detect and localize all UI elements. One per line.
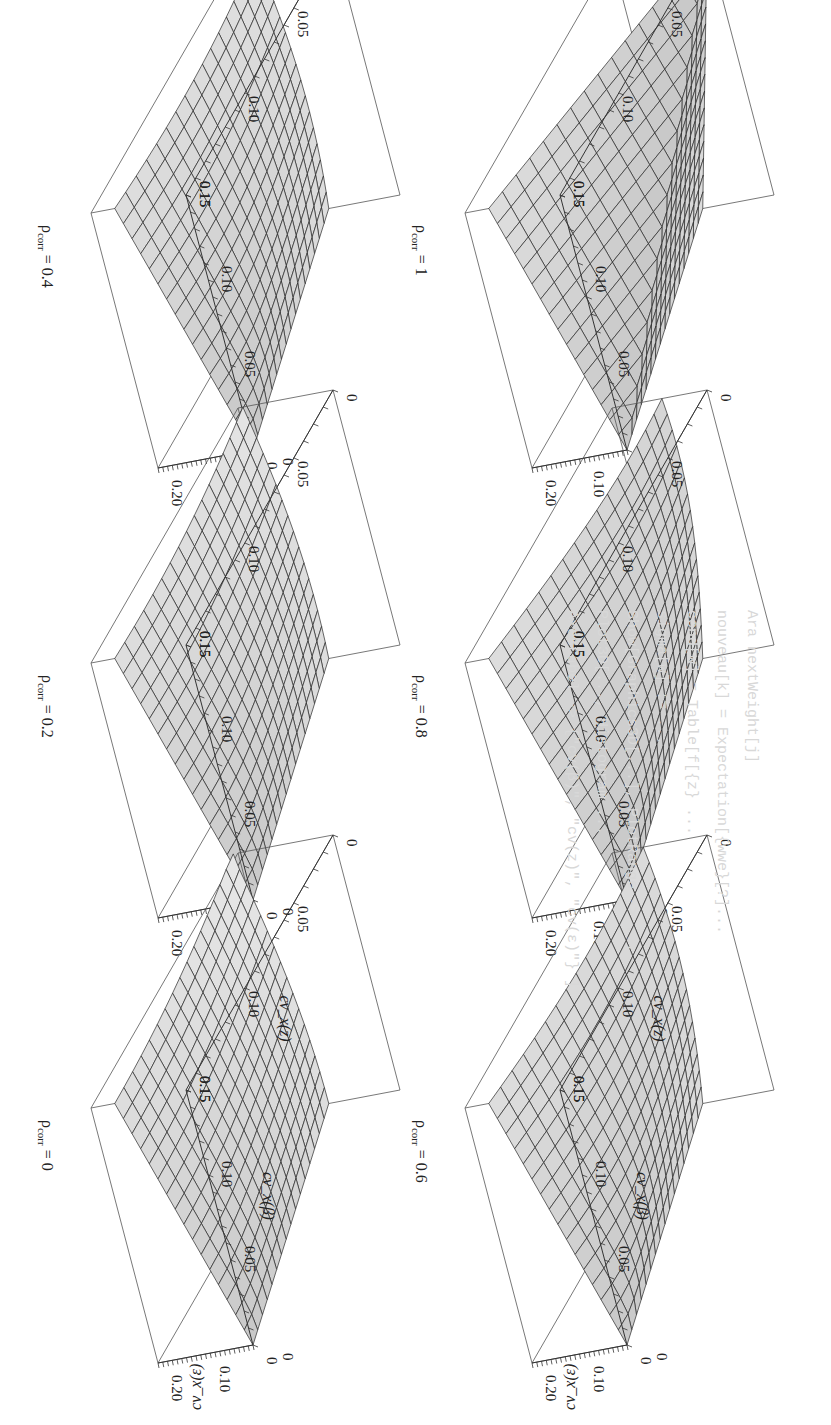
z-tick	[182, 464, 183, 469]
y-tick-label: 0.05	[669, 11, 685, 37]
bounding-box-edge	[333, 390, 400, 645]
x-tick-label: 0	[654, 1353, 670, 1361]
y-tick	[678, 886, 683, 888]
z-tick	[201, 460, 202, 465]
z-tick	[594, 906, 595, 911]
z-tick	[599, 905, 600, 910]
z-tick	[191, 462, 192, 467]
z-tick	[532, 1363, 533, 1368]
z-tick	[603, 455, 604, 460]
z-tick	[542, 916, 543, 921]
z-tick	[551, 1359, 552, 1364]
y-tick-label: 0	[344, 394, 360, 402]
z-tick-label: 0	[264, 1357, 280, 1365]
bleed-line: sigma[w] := ...	[653, 610, 670, 745]
z-tick	[608, 1349, 609, 1354]
z-tick-label: 0	[264, 912, 280, 920]
z-tick-label: 0.20	[169, 480, 185, 506]
z-tick	[551, 464, 552, 469]
z-tick	[220, 1351, 221, 1356]
z-tick	[542, 466, 543, 471]
y-tick	[284, 475, 289, 477]
z-tick	[584, 458, 585, 463]
y-tick	[668, 903, 673, 905]
z-axis-label: cv_x(ε)	[561, 1364, 579, 1410]
x-tick	[253, 1345, 258, 1347]
z-tick	[556, 914, 557, 919]
z-tick	[163, 1362, 164, 1367]
y-tick-label: 0.10	[246, 546, 262, 572]
z-tick	[556, 464, 557, 469]
z-tick	[187, 463, 188, 468]
z-tick	[561, 1358, 562, 1363]
z-tick	[608, 904, 609, 909]
z-tick	[182, 914, 183, 919]
z-tick	[206, 1354, 207, 1359]
x-tick-label: 0.10	[219, 716, 235, 742]
z-tick	[622, 1346, 623, 1351]
z-tick	[201, 1355, 202, 1360]
bleed-line: Show[Graphics3D[...], PlotRange -> ...	[623, 610, 640, 952]
z-tick	[210, 458, 211, 463]
y-tick-label: 0.10	[620, 96, 636, 122]
y-tick-label: 0.15	[571, 181, 587, 207]
z-tick	[542, 1361, 543, 1366]
y-tick	[697, 852, 702, 854]
z-tick	[565, 462, 566, 467]
y-tick-label: 0	[344, 839, 360, 847]
y-tick-label: 0.10	[246, 96, 262, 122]
z-tick	[172, 465, 173, 470]
z-tick	[603, 1350, 604, 1355]
x-tick-label: 0.05	[616, 1246, 632, 1272]
z-tick	[158, 918, 159, 923]
bleed-line: nouveau[k] = Expectation[{wwe}[?]...	[713, 610, 730, 934]
y-tick-label: 0.05	[295, 461, 311, 487]
z-tick	[589, 1352, 590, 1357]
z-tick	[584, 908, 585, 913]
z-tick	[191, 912, 192, 917]
z-tick	[187, 913, 188, 918]
z-axis-label: cv_x(ε)	[187, 1364, 205, 1410]
y-tick-label: 0.05	[669, 906, 685, 932]
z-tick	[537, 467, 538, 472]
bleed-line: cond[w] = Table[f[{z} ...	[683, 610, 700, 835]
z-tick	[537, 917, 538, 922]
panel-title: ρcorr = 1	[410, 225, 430, 276]
z-tick	[551, 914, 552, 919]
z-tick	[187, 1358, 188, 1363]
z-tick	[177, 914, 178, 919]
y-tick	[313, 424, 318, 426]
z-tick-label: 0	[638, 1357, 654, 1365]
y-tick	[323, 407, 328, 409]
z-tick-label: 0.10	[591, 471, 607, 497]
z-tick	[215, 1352, 216, 1357]
y-tick-label: 0	[718, 394, 734, 402]
y-tick	[323, 852, 328, 854]
z-tick-label: 0.20	[169, 1375, 185, 1401]
y-tick	[697, 407, 702, 409]
y-axis-label: cv_x(z)	[276, 996, 294, 1042]
x-tick-label: 0.10	[593, 266, 609, 292]
panel-title: ρcorr = 0.4	[36, 225, 56, 288]
z-tick	[589, 907, 590, 912]
x-tick-label: 0.10	[219, 266, 235, 292]
z-tick	[163, 917, 164, 922]
bounding-box-edge	[333, 0, 400, 195]
x-tick-label: 0.05	[242, 1246, 258, 1272]
z-tick	[570, 1356, 571, 1361]
z-tick-label: 0.20	[543, 930, 559, 956]
z-tick-label: 0.20	[543, 480, 559, 506]
z-tick	[239, 1348, 240, 1353]
z-tick	[618, 1347, 619, 1352]
z-tick	[196, 461, 197, 466]
z-tick	[532, 918, 533, 923]
y-axis-label: cv_x(z)	[650, 996, 668, 1042]
y-tick	[678, 441, 683, 443]
x-tick-label: 0	[280, 908, 296, 916]
y-tick-label: 0.15	[571, 1076, 587, 1102]
z-tick	[561, 913, 562, 918]
y-tick-label: 0.15	[197, 181, 213, 207]
page: Ara nextWeight[j]nouveau[k] = Expectatio…	[0, 0, 831, 1425]
z-tick	[594, 456, 595, 461]
bounding-box-edge	[333, 835, 400, 1090]
